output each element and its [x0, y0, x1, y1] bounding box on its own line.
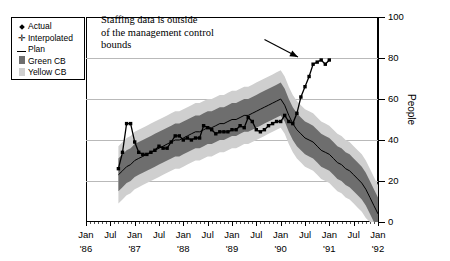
x-tick-minor: [179, 222, 180, 224]
x-tick-minor: [370, 222, 371, 224]
y-tick-mark: [378, 99, 385, 100]
x-tick-minor: [309, 222, 310, 224]
x-tick-minor: [337, 222, 338, 224]
x-tick-minor: [123, 222, 124, 224]
y-tick-mark: [378, 222, 385, 223]
x-tick-major: [256, 222, 257, 226]
x-tick-major: [86, 222, 87, 226]
y-tick-mark: [378, 17, 385, 18]
x-tick-minor: [118, 222, 119, 224]
x-tick-minor: [264, 222, 265, 224]
x-tick-minor: [216, 222, 217, 224]
x-tick-minor: [350, 222, 351, 224]
y-tick-mark: [378, 181, 385, 182]
x-tick-minor: [127, 222, 128, 224]
x-tick-minor: [297, 222, 298, 224]
x-tick-minor: [333, 222, 334, 224]
x-tick-minor: [175, 222, 176, 224]
x-tick-minor: [236, 222, 237, 224]
x-tick-minor: [358, 222, 359, 224]
x-tick-minor: [114, 222, 115, 224]
x-tick-minor: [147, 222, 148, 224]
x-tick-major: [232, 222, 233, 226]
x-tick-minor: [102, 222, 103, 224]
x-tick-major: [208, 222, 209, 226]
x-tick-minor: [289, 222, 290, 224]
x-tick-minor: [143, 222, 144, 224]
x-tick-major: [378, 222, 379, 226]
x-tick-label-month: Jan: [363, 229, 393, 240]
x-tick-major: [110, 222, 111, 226]
x-tick-minor: [248, 222, 249, 224]
x-tick-minor: [260, 222, 261, 224]
x-tick-minor: [293, 222, 294, 224]
x-tick-minor: [252, 222, 253, 224]
x-tick-minor: [163, 222, 164, 224]
y-tick-label: 100: [388, 11, 404, 22]
x-tick-minor: [155, 222, 156, 224]
x-tick-minor: [317, 222, 318, 224]
y-tick-label: 80: [388, 52, 399, 63]
y-tick-label: 20: [388, 175, 399, 186]
x-tick-minor: [90, 222, 91, 224]
x-tick-minor: [362, 222, 363, 224]
x-tick-minor: [212, 222, 213, 224]
x-tick-minor: [187, 222, 188, 224]
x-tick-label-year: '89: [217, 243, 247, 254]
x-tick-minor: [346, 222, 347, 224]
x-tick-major: [183, 222, 184, 226]
x-tick-minor: [342, 222, 343, 224]
x-tick-major: [159, 222, 160, 226]
x-tick-label-year: '88: [168, 243, 198, 254]
x-tick-label-year: '86: [71, 243, 101, 254]
x-tick-minor: [171, 222, 172, 224]
x-tick-minor: [277, 222, 278, 224]
x-tick-minor: [313, 222, 314, 224]
x-tick-major: [281, 222, 282, 226]
y-tick-label: 40: [388, 134, 399, 145]
x-tick-minor: [240, 222, 241, 224]
x-tick-minor: [325, 222, 326, 224]
x-tick-major: [354, 222, 355, 226]
x-tick-minor: [244, 222, 245, 224]
x-tick-minor: [228, 222, 229, 224]
x-tick-minor: [366, 222, 367, 224]
x-tick-major: [305, 222, 306, 226]
x-tick-label-year: '92: [363, 243, 393, 254]
x-tick-minor: [204, 222, 205, 224]
x-tick-minor: [98, 222, 99, 224]
x-tick-minor: [301, 222, 302, 224]
arrow-head: [289, 51, 298, 58]
x-tick-minor: [374, 222, 375, 224]
y-tick-mark: [378, 58, 385, 59]
y-tick-label: 60: [388, 93, 399, 104]
x-tick-minor: [285, 222, 286, 224]
x-tick-major: [329, 222, 330, 226]
x-tick-minor: [131, 222, 132, 224]
x-tick-label-year: '91: [314, 243, 344, 254]
x-tick-minor: [94, 222, 95, 224]
x-tick-minor: [220, 222, 221, 224]
y-tick-mark: [378, 140, 385, 141]
y-axis-title: People: [406, 94, 417, 125]
x-tick-minor: [191, 222, 192, 224]
x-tick-minor: [167, 222, 168, 224]
x-tick-minor: [151, 222, 152, 224]
x-tick-minor: [269, 222, 270, 224]
x-tick-minor: [196, 222, 197, 224]
x-tick-label-year: '90: [266, 243, 296, 254]
x-tick-label-year: '87: [120, 243, 150, 254]
x-tick-minor: [224, 222, 225, 224]
x-tick-major: [135, 222, 136, 226]
x-tick-minor: [273, 222, 274, 224]
x-tick-minor: [139, 222, 140, 224]
y-tick-label: 0: [388, 216, 393, 227]
x-tick-minor: [106, 222, 107, 224]
x-tick-minor: [321, 222, 322, 224]
x-tick-minor: [200, 222, 201, 224]
